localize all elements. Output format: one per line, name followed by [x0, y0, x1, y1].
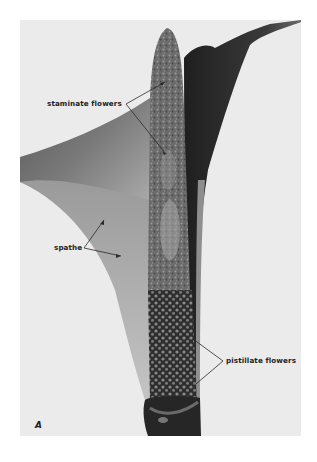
annotation-layer: staminate flowers spathe pistillate flow…	[0, 0, 317, 462]
figure: staminate flowers spathe pistillate flow…	[0, 0, 317, 462]
label-staminate-flowers: staminate flowers	[47, 100, 122, 107]
label-spathe: spathe	[54, 244, 82, 251]
panel-letter: A	[35, 421, 42, 430]
leader-lines	[0, 0, 317, 462]
label-pistillate-flowers: pistillate flowers	[226, 357, 296, 364]
